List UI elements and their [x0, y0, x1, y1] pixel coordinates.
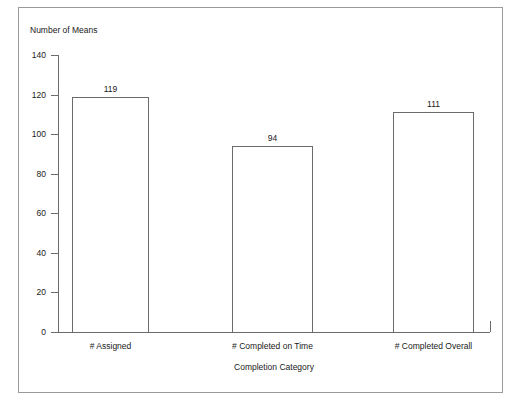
x-axis-title: Completion Category	[58, 362, 490, 372]
y-tick-label-0: 0	[0, 327, 46, 337]
y-tick-label-120: 120	[0, 90, 46, 100]
y-tick-label-80: 80	[0, 169, 46, 179]
bar-completed-on-time	[232, 146, 313, 333]
y-tick-label-100: 100	[0, 129, 46, 139]
x-category-label-completed-on-time: # Completed on Time	[222, 341, 323, 351]
x-tick-boundary-0	[58, 321, 59, 332]
y-tick-label-60: 60	[0, 208, 46, 218]
bar-value-completed-on-time: 94	[232, 133, 313, 143]
y-tick-60	[51, 213, 58, 214]
bar-chart: Number of Means 140 120 100 80 60 40 20 …	[0, 0, 518, 405]
y-tick-label-20: 20	[0, 287, 46, 297]
y-axis-line	[58, 55, 59, 333]
y-tick-0	[51, 332, 58, 333]
y-tick-120	[51, 95, 58, 96]
y-tick-80	[51, 174, 58, 175]
y-tick-40	[51, 253, 58, 254]
y-tick-140	[51, 55, 58, 56]
x-category-label-assigned: # Assigned	[60, 341, 161, 351]
y-tick-20	[51, 292, 58, 293]
x-tick-boundary-7	[490, 321, 491, 332]
bar-completed-overall	[393, 112, 474, 333]
y-tick-label-40: 40	[0, 248, 46, 258]
bar-value-completed-overall: 111	[393, 99, 474, 109]
bar-value-assigned: 119	[72, 84, 149, 94]
bar-assigned	[72, 97, 149, 333]
x-category-label-completed-overall: # Completed Overall	[383, 341, 484, 351]
y-axis-title: Number of Means	[30, 25, 98, 35]
y-tick-label-140: 140	[0, 50, 46, 60]
y-tick-100	[51, 134, 58, 135]
